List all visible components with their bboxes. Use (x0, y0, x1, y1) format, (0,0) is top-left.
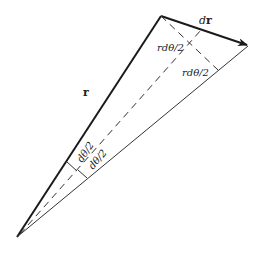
bisector-dashed-line (20, 30, 201, 234)
dr-label: dr (199, 14, 212, 27)
angle-arc-lower (78, 170, 87, 178)
diagram-canvas: r dr rdθ/2 rdθ/2 dθ/2 dθ/2 (0, 0, 264, 253)
r-label: r (83, 86, 89, 99)
dr-d: d (199, 14, 206, 27)
dr-r: r (206, 14, 212, 27)
rdtheta-upper-label: rdθ/2 (157, 42, 184, 53)
rdtheta-lower-label: rdθ/2 (182, 67, 209, 78)
r-vector-line (17, 16, 161, 237)
triangle-diagram: r dr rdθ/2 rdθ/2 dθ/2 dθ/2 (0, 0, 264, 253)
angle-arc-upper (67, 162, 77, 171)
lower-side-line (17, 46, 248, 237)
